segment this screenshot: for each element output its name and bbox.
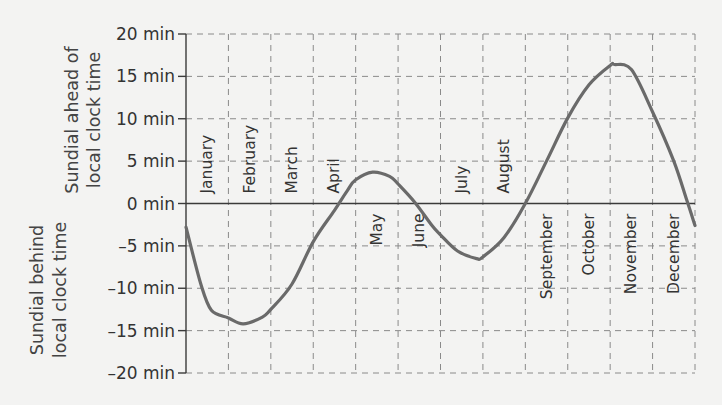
month-label-august: August [495,139,513,193]
month-label-march: March [283,146,301,193]
y-axis [178,34,695,373]
month-label-april: April [325,158,343,193]
y-axis-labels: Sundial ahead of local clock time Sundia… [27,46,104,359]
month-label-december: December [665,213,683,294]
month-label-january: January [198,135,216,195]
month-label-july: July [453,166,471,195]
month-label-may: May [368,214,386,246]
y-tick-label: –20 min [107,363,175,383]
y-tick-label: 15 min [116,66,175,86]
month-label-february: February [241,125,259,194]
ylabel-positive-line1: Sundial ahead of [62,46,82,194]
y-tick-label: 5 min [127,151,175,171]
y-tick-label: 0 min [127,194,175,214]
month-label-october: October [580,213,598,276]
y-tick-label: –15 min [107,321,175,341]
month-label-november: November [622,213,640,294]
ylabel-negative-line2: local clock time [50,222,70,358]
month-label-september: September [538,213,556,299]
y-tick-label: 10 min [116,109,175,129]
ylabel-positive-line2: local clock time [84,52,104,188]
ylabel-negative-line1: Sundial behind [27,225,47,355]
y-tick-label: –10 min [107,278,175,298]
y-tick-label: 20 min [116,24,175,44]
y-tick-label: –5 min [118,236,175,256]
y-tick-labels: 20 min15 min10 min5 min0 min–5 min–10 mi… [107,24,175,383]
equation-of-time-chart: 20 min15 min10 min5 min0 min–5 min–10 mi… [0,0,722,405]
